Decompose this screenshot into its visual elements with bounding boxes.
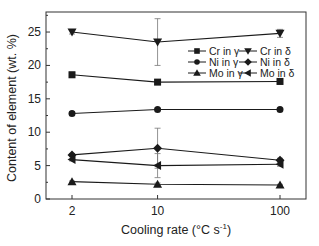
y-tick-label: 0 (34, 192, 41, 206)
x-tick-label: 2 (69, 204, 76, 218)
series-line (72, 32, 280, 42)
y-tick-label: 20 (28, 58, 42, 72)
error-bars (69, 19, 283, 186)
x-axis-label: Cooling rate (°C s-1) (121, 222, 231, 237)
square-marker (154, 79, 161, 86)
plot-border (46, 12, 306, 199)
plot-frame (46, 12, 306, 199)
y-axis: 0510152025 (28, 15, 50, 206)
triangle-down-marker (153, 39, 162, 47)
diamond-marker (244, 58, 252, 66)
circle-marker (277, 106, 284, 113)
legend: Cr in γCr in δNi in γNi in δMo in γMo in… (188, 45, 295, 79)
circle-marker (69, 110, 76, 117)
square-marker (194, 48, 200, 54)
y-tick-label: 10 (28, 125, 42, 139)
x-tick-label: 100 (270, 204, 290, 218)
series-lines (72, 32, 280, 185)
x-tick-label: 10 (151, 204, 165, 218)
x-axis: 210100 (69, 195, 291, 218)
series-line (72, 182, 280, 185)
square-marker (277, 78, 284, 85)
triangle-left-marker (244, 69, 251, 77)
series-line (72, 110, 280, 114)
series-line (72, 160, 280, 166)
x-axis-label-close: ) (227, 223, 231, 237)
circle-marker (194, 59, 200, 65)
triangle-left-marker (153, 161, 161, 170)
y-tick-label: 5 (34, 159, 41, 173)
square-marker (69, 71, 76, 78)
y-tick-label: 15 (28, 92, 42, 106)
series-line (72, 75, 280, 82)
y-axis-label: Content of element (wt. %) (5, 34, 19, 182)
x-axis-label-main: Cooling rate (°C s (121, 223, 220, 237)
circle-marker (154, 106, 161, 113)
series-line (72, 148, 280, 160)
triangle-up-marker (68, 177, 77, 185)
y-tick-label: 25 (28, 25, 42, 39)
diamond-marker (153, 144, 162, 153)
legend-label: Mo in γ (209, 67, 244, 79)
legend-label: Mo in δ (260, 67, 295, 79)
line-chart: 0510152025 210100 Cr in γCr in δNi in γN… (0, 0, 319, 246)
